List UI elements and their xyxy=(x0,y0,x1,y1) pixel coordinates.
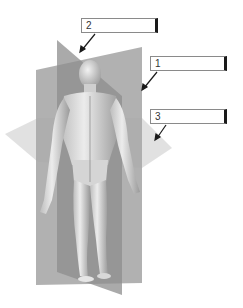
anatomical-planes-diagram: 2 1 3 xyxy=(0,0,243,308)
label-number: 1 xyxy=(155,58,161,70)
diagram-canvas xyxy=(0,0,243,308)
label-number: 3 xyxy=(155,111,161,123)
label-box-3[interactable]: 3 xyxy=(150,109,227,124)
label-box-1[interactable]: 1 xyxy=(150,56,227,71)
label-box-2[interactable]: 2 xyxy=(81,18,158,33)
label-number: 2 xyxy=(86,20,92,32)
